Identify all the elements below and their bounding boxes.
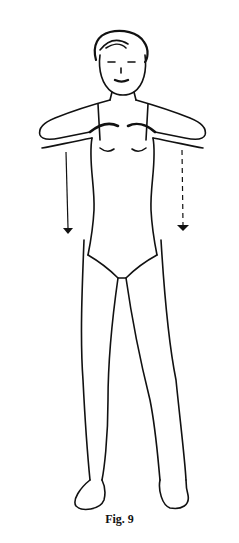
arrow-right-dashed: [177, 150, 189, 231]
head: [95, 31, 148, 95]
figure-illustration: [0, 0, 239, 543]
arrow-left-solid: [63, 152, 73, 234]
figure-caption: Fig. 9: [0, 512, 239, 527]
